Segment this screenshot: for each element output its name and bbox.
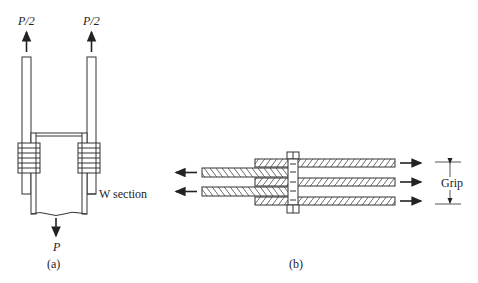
force-label-left-top: P/2 bbox=[18, 15, 35, 27]
grip-label: Grip bbox=[441, 177, 463, 189]
plate-bottom bbox=[255, 197, 395, 205]
caption-a: (a) bbox=[47, 258, 60, 270]
plate-left-lower bbox=[202, 187, 297, 196]
w-section-label: W section bbox=[99, 188, 147, 200]
force-label-bottom: P bbox=[53, 241, 60, 253]
diagram-canvas bbox=[0, 0, 478, 283]
plate-top bbox=[255, 159, 395, 167]
bolt-group-left bbox=[18, 143, 40, 173]
plate-middle-right bbox=[255, 178, 395, 186]
caption-b: (b) bbox=[289, 258, 303, 270]
bolt bbox=[287, 152, 299, 213]
w-section-break-line bbox=[31, 212, 87, 215]
bolt-group-right bbox=[78, 143, 100, 173]
plate-left-upper bbox=[202, 168, 297, 177]
figure-b bbox=[176, 152, 461, 213]
force-label-right-top: P/2 bbox=[83, 15, 100, 27]
figure-a bbox=[18, 32, 100, 236]
